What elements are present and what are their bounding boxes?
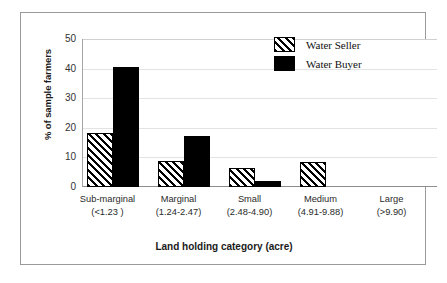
y-axis-tick-label: 50 (36, 34, 76, 44)
bar-water-seller (229, 168, 255, 187)
chart-legend: Water Seller Water Buyer (274, 35, 419, 73)
bar-water-seller (158, 161, 184, 187)
y-axis-tick-label: 40 (36, 64, 76, 74)
bar-group (153, 39, 224, 187)
bar-water-buyer (184, 136, 210, 187)
y-axis-tick-label: 30 (36, 93, 76, 103)
y-axis-tick-label: 0 (36, 182, 76, 192)
legend-label-water-seller: Water Seller (306, 39, 360, 51)
x-tick-line1: Large (356, 193, 427, 206)
legend-swatch-water-buyer (274, 56, 295, 71)
x-axis-tick-label: Medium(4.91-9.88) (285, 193, 356, 218)
x-tick-line1: Marginal (143, 193, 214, 206)
bar-water-seller (87, 133, 113, 187)
x-tick-line2: (1.24-2.47) (143, 206, 214, 219)
y-axis-tick-label: 10 (36, 152, 76, 162)
x-tick-line1: Small (214, 193, 285, 206)
y-axis-tick-label: 20 (36, 123, 76, 133)
legend-swatch-water-seller (274, 37, 295, 52)
x-axis-tick-label: Sub-marginal(<1.23 ) (72, 193, 143, 218)
bar-water-buyer (255, 181, 281, 188)
x-tick-line1: Sub-marginal (72, 193, 143, 206)
bar-water-buyer (113, 67, 139, 187)
x-axis-tick-label: Small(2.48-4.90) (214, 193, 285, 218)
x-tick-line2: (>9.90) (356, 206, 427, 219)
bar-group (82, 39, 153, 187)
x-axis-title: Land holding category (acre) (21, 241, 427, 252)
bar-water-seller (300, 162, 326, 187)
x-tick-line1: Medium (285, 193, 356, 206)
legend-label-water-buyer: Water Buyer (306, 58, 362, 70)
legend-item-water-seller: Water Seller (274, 35, 419, 54)
legend-item-water-buyer: Water Buyer (274, 54, 419, 73)
x-tick-line2: (2.48-4.90) (214, 206, 285, 219)
x-tick-line2: (<1.23 ) (72, 206, 143, 219)
x-axis-tick-label: Large(>9.90) (356, 193, 427, 218)
x-axis-tick-label: Marginal(1.24-2.47) (143, 193, 214, 218)
chart-figure: % of sample farmers 01020304050 Sub-marg… (0, 0, 447, 283)
x-tick-line2: (4.91-9.88) (285, 206, 356, 219)
chart-frame: % of sample farmers 01020304050 Sub-marg… (20, 12, 426, 265)
